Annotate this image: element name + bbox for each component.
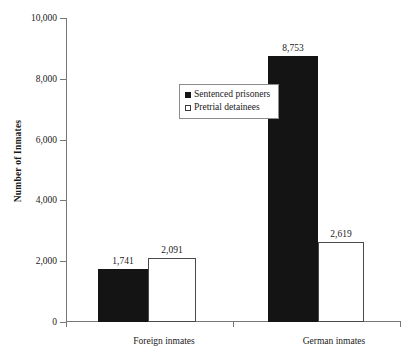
y-axis-tick-label: 6,000 <box>36 135 57 145</box>
y-axis-title-text: Number of Inmates <box>13 120 23 202</box>
bar-value-label: 1,741 <box>112 256 133 266</box>
y-axis-tick-mark <box>60 200 67 201</box>
legend-entry-sentenced: Sentenced prisoners <box>185 88 270 101</box>
x-axis-tick-mark <box>400 321 401 327</box>
bar-chart: Number of Inmates 02,0004,0006,0008,0001… <box>0 0 413 358</box>
bar-value-label: 8,753 <box>282 43 303 53</box>
x-axis-tick-mark <box>66 321 67 327</box>
y-axis-tick-label: 0 <box>52 317 57 327</box>
legend-entry-pretrial: Pretrial detainees <box>185 101 270 114</box>
bar-pretrial: 2,091 <box>148 258 196 322</box>
y-axis-tick-label: 8,000 <box>36 74 57 84</box>
legend-swatch-filled-icon <box>185 92 191 98</box>
plot-area: 02,0004,0006,0008,00010,000 1,7412,0918,… <box>66 18 400 322</box>
y-axis-tick-mark <box>60 18 67 19</box>
legend-label-pretrial: Pretrial detainees <box>194 101 260 114</box>
bar-value-label: 2,091 <box>161 245 182 255</box>
bar-value-label: 2,619 <box>330 229 351 239</box>
legend-label-sentenced: Sentenced prisoners <box>194 88 270 101</box>
y-axis-line <box>66 18 67 322</box>
x-axis-category-label: Foreign inmates <box>133 336 194 346</box>
x-axis-tick-mark <box>233 321 234 327</box>
legend: Sentenced prisoners Pretrial detainees <box>179 84 279 119</box>
y-axis-tick-mark <box>60 79 67 80</box>
legend-swatch-open-icon <box>185 105 191 111</box>
x-axis-category-label: German inmates <box>303 336 366 346</box>
bar-pretrial: 2,619 <box>318 242 364 322</box>
y-axis-tick-label: 4,000 <box>36 195 57 205</box>
y-axis-title: Number of Inmates <box>8 0 28 322</box>
y-axis-tick-label: 10,000 <box>31 13 57 23</box>
bar-sentenced: 1,741 <box>98 269 148 322</box>
y-axis-tick-mark <box>60 140 67 141</box>
y-axis-tick-label: 2,000 <box>36 256 57 266</box>
y-axis-tick-mark <box>60 261 67 262</box>
